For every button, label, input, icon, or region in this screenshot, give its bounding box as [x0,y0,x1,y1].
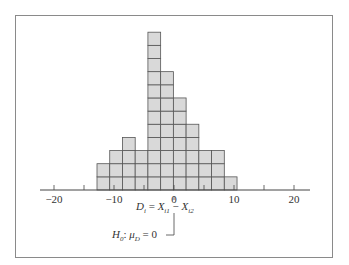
histogram-cell [148,32,161,45]
histogram-cell [224,177,237,190]
histogram-cell [97,164,110,177]
histogram-cell [148,151,161,164]
histogram-cell [110,151,123,164]
x-tick-label: −20 [45,193,63,205]
histogram-cell [173,164,186,177]
histogram-cell [186,164,199,177]
histogram-cell [186,137,199,150]
histogram-cell [173,98,186,111]
histogram-cell [186,151,199,164]
histogram-cell [173,124,186,137]
histogram-cell [173,137,186,150]
histogram-cell [186,124,199,137]
histogram-cell [161,85,174,98]
histogram-cell [122,151,135,164]
histogram-cell [173,151,186,164]
histogram-cell [122,177,135,190]
histogram-cell [148,124,161,137]
histogram-cell [161,111,174,124]
histogram-cell [122,137,135,150]
histogram-cell [148,98,161,111]
histogram-cell [148,59,161,72]
histogram-cell [148,72,161,85]
histogram-cell [161,151,174,164]
histogram-cell [97,177,110,190]
histogram-cell [161,177,174,190]
histogram-cell [135,177,148,190]
histogram-bars [97,32,237,190]
x-tick-label: 20 [289,193,301,205]
histogram-cell [173,177,186,190]
histogram-cell [199,164,212,177]
histogram-cell [148,137,161,150]
histogram-cell [161,124,174,137]
histogram-cell [148,111,161,124]
null-hypothesis: H0: μD = 0 [111,228,158,243]
histogram-cell [148,85,161,98]
histogram-cell [122,164,135,177]
histogram-chart: −20−1001020 Di = Xi1 − Xi2 H0: μD = 0 [0,0,349,265]
histogram-cell [148,45,161,58]
histogram-cell [186,177,199,190]
histogram-cell [135,164,148,177]
histogram-cell [161,137,174,150]
histogram-cell [110,177,123,190]
histogram-cell [212,177,225,190]
histogram-cell [161,164,174,177]
histogram-cell [199,177,212,190]
histogram-cell [148,164,161,177]
annotation: Di = Xi1 − Xi2 H0: μD = 0 [111,196,194,243]
x-tick-label: −10 [105,193,123,205]
x-tick-label: 10 [229,193,241,205]
histogram-cell [161,72,174,85]
histogram-cell [110,164,123,177]
histogram-cell [212,164,225,177]
histogram-cell [161,98,174,111]
histogram-cell [135,151,148,164]
histogram-cell [199,151,212,164]
histogram-cell [212,151,225,164]
histogram-cell [173,111,186,124]
histogram-cell [148,177,161,190]
difference-definition: Di = Xi1 − Xi2 [135,200,194,215]
